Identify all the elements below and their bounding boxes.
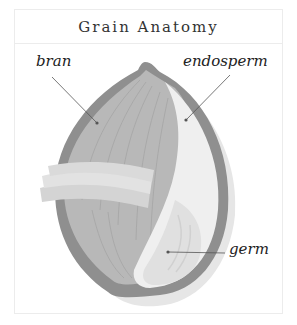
label-germ: germ xyxy=(229,240,269,258)
grain-illustration xyxy=(0,0,297,325)
bran-leader-line xyxy=(52,77,97,123)
endosperm-leader-dot xyxy=(184,118,187,121)
label-endosperm: endosperm xyxy=(183,52,268,70)
bran-leader-dot xyxy=(95,121,98,124)
germ-leader-dot xyxy=(166,250,169,253)
label-bran: bran xyxy=(36,52,71,70)
